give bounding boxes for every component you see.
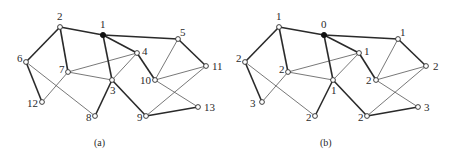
cross-edge [155,66,206,80]
tree-edge [324,35,398,39]
vertex [243,60,248,65]
vertex-label: 2 [57,10,63,22]
vertex-label: 13 [204,101,216,113]
caption-b: (b) [320,137,332,149]
cross-edge [376,39,398,80]
vertex-label: 7 [59,63,65,75]
vertex [277,25,282,30]
vertex-label: 11 [212,60,223,72]
tree-edge [103,35,112,80]
cross-edge [112,53,137,80]
vertex [66,70,71,75]
vertex [365,114,370,119]
vertex [286,70,291,75]
vertex-label: 9 [137,111,143,123]
vertex-label: 2 [366,74,372,86]
vertex-label: 2 [236,52,242,64]
cross-edge [288,72,333,80]
vertex-label: 0 [321,18,327,30]
graph-b-bfs-distances: 0111122222233 [236,10,439,123]
vertex-label: 2 [306,111,312,123]
vertex-label: 2 [279,63,285,75]
tree-edge [178,39,206,66]
tree-edge [103,35,178,39]
root-vertex [100,32,105,37]
tree-edge [324,35,359,53]
cross-edge [288,53,359,72]
vertex [58,25,63,30]
tree-edge [60,27,103,35]
tree-edge [367,107,418,116]
cross-edge [376,66,426,80]
vertex [40,100,45,105]
vertex-label: 5 [180,26,186,38]
vertex-label: 12 [27,97,38,109]
tree-edge [398,39,426,66]
tree-edge [26,27,60,62]
tree-edge [103,35,137,53]
cross-edge [68,72,112,80]
root-vertex [321,32,326,37]
vertex-label: 8 [86,111,92,123]
tree-edge [324,35,333,80]
vertex-label: 1 [100,18,106,30]
vertex [357,51,362,56]
cross-edge [68,53,137,72]
vertex [93,114,98,119]
vertex-label: 1 [364,45,370,57]
vertex-label: 3 [110,84,116,96]
graph-figure: 12345678910111213 0111122222233 (a) (b) [0,0,452,157]
vertex [313,114,318,119]
cross-edge [42,72,68,102]
vertex-label: 3 [250,97,256,109]
vertex-label: 3 [424,101,430,113]
vertex [260,100,265,105]
vertex [331,78,336,83]
vertex-label: 2 [358,111,364,123]
vertex [153,78,158,83]
caption-a: (a) [94,137,105,149]
vertex-label: 1 [400,26,406,38]
tree-edge [279,27,324,35]
graph-a-vertex-labels: 12345678910111213 [17,10,223,123]
vertex-label: 1 [331,84,337,96]
vertex-label: 4 [142,45,148,57]
cross-edge [333,53,359,80]
vertex [204,64,209,69]
tree-edge [146,107,198,116]
vertex [110,78,115,83]
vertex-label: 1 [276,10,282,22]
vertex [24,60,29,65]
vertex [424,64,429,69]
vertex [144,114,149,119]
cross-edge [155,39,178,80]
vertex [416,105,421,110]
cross-edge [262,72,288,102]
vertex-label: 2 [433,60,439,72]
vertex [135,51,140,56]
tree-edge [245,27,279,62]
vertex-label: 10 [140,74,152,86]
vertex-label: 6 [17,52,23,64]
tree-edge [245,62,262,102]
vertex [374,78,379,83]
vertex [196,105,201,110]
